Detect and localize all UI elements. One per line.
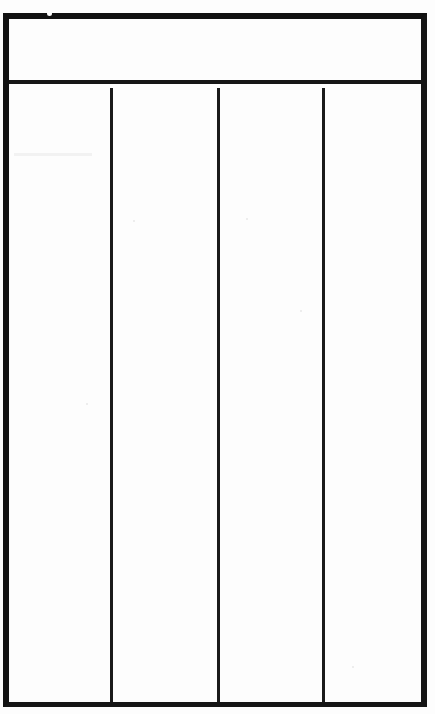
table-column-1 bbox=[9, 88, 110, 702]
top-rule-speck-artifact bbox=[47, 11, 52, 16]
paper-fleck-3 bbox=[352, 666, 354, 668]
paper-fleck-1 bbox=[246, 218, 248, 220]
header-cell-2 bbox=[110, 19, 217, 80]
table-column-1-content bbox=[9, 88, 10, 89]
paper-fleck-2 bbox=[133, 220, 135, 222]
paper-fleck-4 bbox=[86, 403, 88, 405]
header-cell-2-label bbox=[110, 19, 111, 20]
column-divider-2 bbox=[217, 88, 220, 702]
table-inner-area bbox=[9, 19, 421, 702]
table-header-row bbox=[9, 19, 421, 84]
table-column-4 bbox=[322, 88, 421, 702]
table-outer-frame bbox=[3, 13, 427, 707]
column-divider-3 bbox=[322, 88, 325, 702]
column-one-smudge-artifact bbox=[14, 153, 92, 156]
header-cell-3 bbox=[217, 19, 322, 80]
header-cell-3-label bbox=[217, 19, 218, 20]
table-column-2 bbox=[110, 88, 217, 702]
header-cell-4-label bbox=[322, 19, 323, 20]
table-body bbox=[9, 88, 421, 702]
scanned-page bbox=[0, 0, 435, 714]
header-cell-4 bbox=[322, 19, 421, 80]
table-column-3 bbox=[217, 88, 322, 702]
header-cell-1-label bbox=[9, 19, 10, 20]
paper-fleck-5 bbox=[300, 310, 302, 312]
header-cell-1 bbox=[9, 19, 110, 80]
column-divider-1 bbox=[110, 88, 113, 702]
